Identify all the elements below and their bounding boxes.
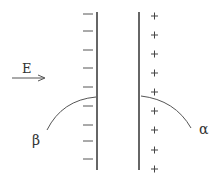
positive-charge (151, 108, 158, 115)
positive-charge (151, 147, 158, 154)
positive-charge (151, 13, 158, 20)
beta-label: β (32, 132, 40, 148)
positive-charge (151, 70, 158, 77)
field-label: E (22, 61, 32, 76)
positive-charge (151, 51, 158, 58)
positive-charge (151, 32, 158, 39)
diagram-canvas: E β α (0, 0, 218, 183)
alpha-label: α (199, 121, 209, 137)
negative-charges (83, 14, 93, 159)
alpha-trajectory (141, 96, 191, 128)
positive-charge (151, 127, 158, 134)
positive-charge (151, 166, 158, 173)
positive-charges (151, 13, 158, 173)
positive-charge (151, 89, 158, 96)
